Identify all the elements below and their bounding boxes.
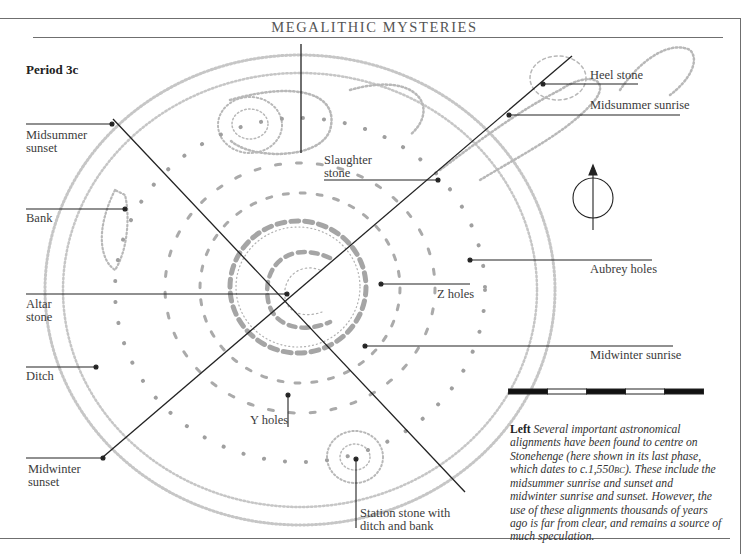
label-midsummer-sunrise: Midsummer sunrise: [590, 99, 690, 112]
scale-bar: [509, 389, 704, 394]
caption-era: BC: [614, 465, 625, 475]
label-midwinter-sunrise: Midwinter sunrise: [590, 349, 681, 362]
label-aubrey-holes: Aubrey holes: [590, 263, 657, 276]
label-ditch: Ditch: [26, 370, 54, 383]
outer-bank: [45, 55, 555, 525]
label-slaughter-stone: Slaughter stone: [324, 154, 372, 180]
label-altar-stone: Altar stone: [26, 298, 52, 324]
label-z-holes: Z holes: [437, 288, 474, 301]
caption-lead: Left: [510, 423, 531, 436]
label-heel-stone: Heel stone: [590, 69, 643, 82]
midwinter-sunset-to-midsummer-sunrise-line: [103, 56, 572, 457]
figure-caption: Left Several important astronomical alig…: [510, 423, 722, 544]
label-midsummer-sunset: Midsummer sunset: [26, 129, 87, 155]
label-bank: Bank: [26, 212, 52, 225]
label-midwinter-sunset: Midwinter sunset: [28, 463, 81, 489]
aubrey-holes-ring: [115, 118, 485, 462]
sarsen-circle: [230, 221, 366, 353]
midsummer-sunset-to-midwinter-sunrise-line: [113, 119, 465, 492]
label-y-holes: Y holes: [250, 414, 288, 427]
north-arrow-icon: [573, 165, 613, 230]
label-station-stone: Station stone with ditch and bank: [360, 507, 450, 533]
